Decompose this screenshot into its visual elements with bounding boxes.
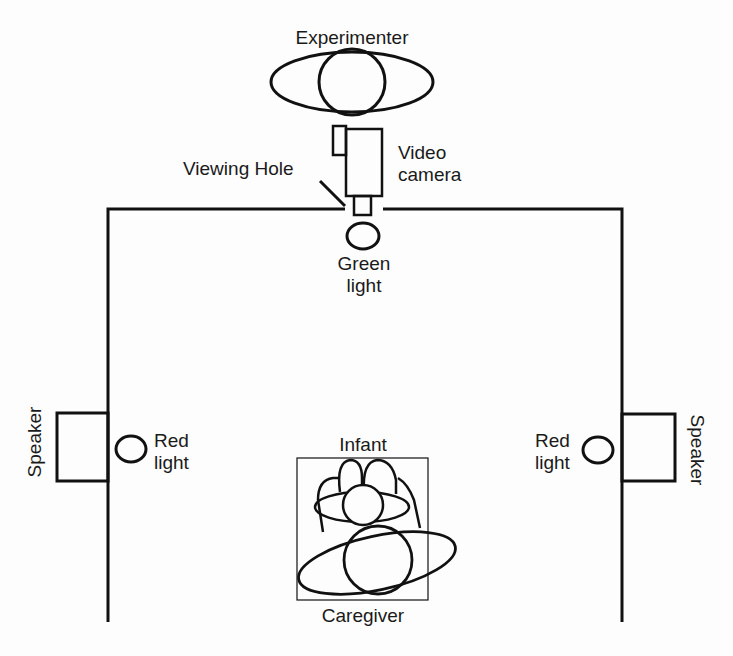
video-camera-label-line2: camera — [398, 164, 461, 186]
caregiver-label: Caregiver — [322, 605, 404, 627]
experimenter-label: Experimenter — [296, 27, 409, 49]
left-speaker-label: Speaker — [24, 407, 46, 478]
right-red-light-label: Red light — [535, 430, 570, 474]
infant-label: Infant — [339, 434, 387, 456]
experimenter-figure — [271, 49, 433, 115]
viewing-hole-label: Viewing Hole — [183, 158, 294, 180]
video-camera-label: Video camera — [398, 142, 461, 186]
left-red-light-label-line1: Red — [154, 430, 189, 452]
left-speaker-icon — [57, 413, 108, 481]
viewing-hole-pointer — [320, 181, 345, 206]
left-red-light-label: Red light — [154, 430, 189, 474]
infant-figure — [315, 460, 420, 532]
right-speaker-icon — [622, 414, 675, 481]
diagram-canvas: Experimenter Video camera Viewing Hole G… — [0, 0, 733, 656]
video-camera-label-line1: Video — [398, 142, 461, 164]
right-red-light-label-line2: light — [535, 452, 570, 474]
green-light-icon — [347, 223, 379, 249]
left-red-light-icon — [116, 436, 146, 462]
right-speaker-label: Speaker — [686, 415, 708, 486]
room-layout-drawing — [0, 0, 733, 656]
left-red-light-label-line2: light — [154, 452, 189, 474]
green-light-label-line2: light — [338, 275, 391, 297]
green-light-label: Green light — [338, 253, 391, 297]
right-red-light-label-line1: Red — [535, 430, 570, 452]
green-light-label-line1: Green — [338, 253, 391, 275]
right-red-light-icon — [583, 437, 613, 463]
caregiver-figure — [293, 520, 461, 606]
